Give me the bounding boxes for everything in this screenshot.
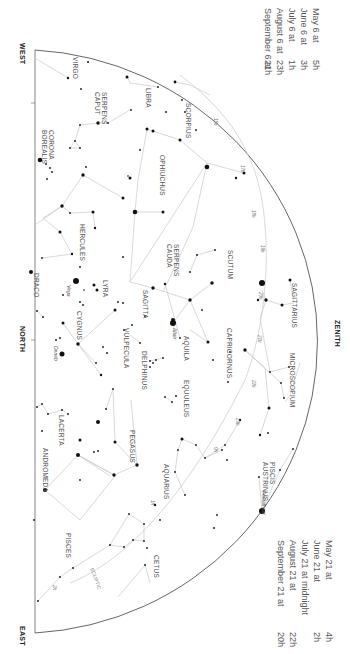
label-star-fomalhaut: Fomalhaut [261, 491, 267, 515]
label-pisces: PISCES [65, 533, 72, 558]
legend-bottom-row: June 21 at2h [311, 540, 323, 647]
ecliptic-degree: 23h [235, 418, 240, 426]
label-pegasus: PEGASUS [129, 430, 136, 463]
label-sagitta: SAGITTA [142, 290, 149, 319]
label-scorpius: SCORPIUS [185, 103, 192, 139]
legend-top-row: June 6 at3h [298, 8, 310, 75]
legend-top-row: July 6 at1h [286, 8, 298, 75]
label-star-vega: Vega [66, 285, 72, 297]
label-corona-borealis: CORONA BOREALIS [41, 130, 55, 162]
label-lyra: LYRA [102, 280, 109, 297]
direction-east: EAST [19, 626, 26, 646]
label-draco: DRACO [33, 273, 40, 297]
legend-bottom-row: May 21 at4h [323, 540, 335, 647]
label-hercules: HERCULES [79, 224, 86, 261]
ecliptic-degree: 17h [240, 165, 245, 173]
ecliptic-degree: 20h [258, 292, 263, 300]
direction-zenith: ZENITH [334, 320, 341, 347]
direction-north: NORTH [19, 326, 26, 352]
ecliptic-line [70, 75, 266, 583]
legend-top: May 6 at5h June 6 at3h July 6 at1h Augus… [262, 8, 322, 75]
label-vulpecula: VULPECULA [123, 328, 130, 368]
label-delphinus: DELPHINUS [141, 351, 148, 390]
ecliptic-degree: 1h [150, 500, 155, 505]
legend-top-row: September 6 at21h [262, 8, 274, 75]
label-cygnus: CYGNUS [76, 311, 83, 340]
label-star-deneb: Deneb [53, 346, 59, 361]
legend-bottom: May 21 at4h June 21 at2h July 21 at midn… [275, 540, 335, 647]
ecliptic-degree: 19h [260, 245, 265, 253]
legend-top-row: May 6 at5h [310, 8, 322, 75]
label-scutum: SCUTUM [227, 250, 234, 279]
label-serpens-caput: SERPENS CAPUT [94, 92, 108, 116]
ecliptic-degree: 22h [251, 380, 256, 388]
legend-bottom-row: August 21 at22h [287, 540, 299, 647]
ecliptic-degree: 2h [52, 585, 57, 590]
label-serpens-cauda: SERPENS CAUDA [166, 244, 180, 268]
label-lacerta: LACERTA [58, 415, 65, 446]
label-piscis-austrinus: PISCIS AUSTRINUS [262, 462, 276, 494]
legend-bottom-row: July 21 at midnight [299, 540, 311, 647]
label-ophiuchus: OPHIUCHUS [159, 155, 166, 196]
label-microscopium: MICROSCOPIUM [289, 353, 296, 407]
ecliptic-degree: 18h [251, 210, 256, 218]
label-libra: LIBRA [145, 88, 152, 108]
legend-bottom-row: September 21 at20h [275, 540, 287, 647]
direction-west: WEST [19, 43, 26, 64]
constellation-lines [35, 58, 300, 601]
label-equuleus: EQUULEUS [183, 380, 190, 417]
label-cetus: CETUS [153, 555, 160, 578]
label-star-altair: Altair [172, 328, 178, 339]
label-aquila: AQUILA [183, 336, 190, 361]
label-aquarius: AQUARIUS [163, 464, 170, 500]
legend-top-row: August 6 at23h [274, 8, 286, 75]
label-andromeda: ANDROMEDA [42, 448, 49, 492]
label-sagittarius: SAGITTARIUS [291, 283, 298, 328]
label-capricornus: CAPRICORNUS [226, 328, 233, 378]
ecliptic-degree: 15h [213, 118, 218, 126]
ecliptic-degree: 21h [257, 335, 262, 343]
ecliptic-degree: 0h [213, 447, 218, 452]
label-virgo: VIRGO [72, 57, 79, 79]
